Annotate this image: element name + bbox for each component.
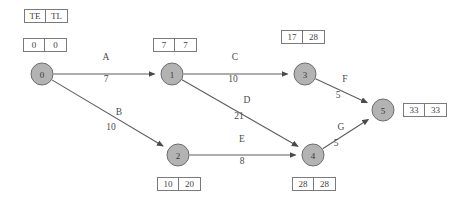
time-box-node-0: 00 [23, 38, 67, 52]
edge-label-duration-D: 21 [234, 112, 244, 122]
tl-value-node-5: 33 [425, 104, 446, 116]
edge-label-activity-C: C [232, 53, 238, 63]
time-box-node-2: 1020 [157, 177, 201, 191]
edge-label-duration-C: 10 [228, 75, 238, 85]
te-value-node-5: 33 [404, 104, 425, 116]
edge-label-duration-G: 5 [334, 139, 339, 149]
time-box-node-3: 1728 [281, 30, 325, 44]
edge-label-duration-F: 5 [336, 91, 341, 101]
te-value-node-3: 17 [282, 31, 303, 43]
te-value-node-2: 10 [158, 178, 179, 190]
edge-label-activity-F: F [342, 75, 347, 85]
tl-value-node-1: 7 [175, 39, 196, 51]
tl-value-node-0: 0 [45, 39, 66, 51]
te-value-node-1: 7 [154, 39, 175, 51]
tl-value-node-4: 28 [314, 178, 335, 190]
edge-label-activity-E: E [239, 135, 245, 145]
te-value-node-0: 0 [24, 39, 45, 51]
node-label-1: 1 [170, 70, 175, 80]
edges-group [52, 74, 368, 155]
edge-label-duration-A: 7 [104, 75, 109, 85]
legend-tl-cell: TL [46, 10, 67, 22]
tl-value-node-2: 20 [179, 178, 200, 190]
legend-te-cell: TE [25, 10, 46, 22]
time-box-node-1: 77 [153, 38, 197, 52]
edge-label-duration-B: 10 [106, 123, 116, 133]
edge-label-activity-G: G [338, 123, 345, 133]
node-label-3: 3 [303, 70, 308, 80]
node-label-0: 0 [40, 70, 45, 80]
time-box-node-4: 2828 [292, 177, 336, 191]
edge-label-activity-D: D [244, 96, 251, 106]
node-label-2: 2 [176, 151, 181, 161]
edge-label-activity-A: A [103, 53, 110, 63]
node-label-5: 5 [381, 106, 386, 116]
time-box-node-5: 3333 [403, 103, 447, 117]
legend-te-tl-box: TE TL [24, 9, 68, 23]
edge-F [315, 79, 367, 103]
network-diagram-canvas: 013245 TE TL 00771728102028283333 A7B10C… [0, 0, 456, 203]
nodes-group: 013245 [31, 63, 394, 166]
te-value-node-4: 28 [293, 178, 314, 190]
edge-label-duration-E: 8 [240, 157, 245, 167]
edge-G [323, 119, 369, 148]
network-edges-and-nodes: 013245 [0, 0, 456, 203]
node-label-4: 4 [311, 151, 316, 161]
tl-value-node-3: 28 [303, 31, 324, 43]
edge-B [52, 80, 163, 146]
edge-label-activity-B: B [116, 108, 122, 118]
